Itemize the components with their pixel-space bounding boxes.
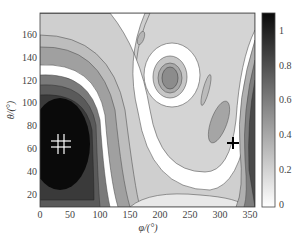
svg-text:1: 1 <box>279 25 284 36</box>
svg-text:80: 80 <box>27 120 37 131</box>
svg-text:60: 60 <box>27 143 37 154</box>
svg-text:0.4: 0.4 <box>279 129 292 140</box>
plot-area <box>30 13 255 207</box>
svg-text:50: 50 <box>65 209 75 220</box>
x-axis-label: φ/(°) <box>139 222 159 234</box>
svg-text:0.8: 0.8 <box>279 60 292 71</box>
svg-text:20: 20 <box>27 189 37 200</box>
svg-text:100: 100 <box>93 209 108 220</box>
colorbar <box>262 13 275 207</box>
y-axis-label: θ/(°) <box>5 100 17 119</box>
svg-text:250: 250 <box>183 209 198 220</box>
svg-text:140: 140 <box>22 52 37 63</box>
colorbar-ticks: 0 0.2 0.4 0.6 0.8 1 <box>279 25 292 210</box>
svg-text:0.2: 0.2 <box>279 164 292 175</box>
svg-text:40: 40 <box>27 166 37 177</box>
svg-text:120: 120 <box>22 75 37 86</box>
svg-text:160: 160 <box>22 29 37 40</box>
contour-figure: 0 0.2 0.4 0.6 0.8 1 0 50 100 150 200 250… <box>0 0 302 246</box>
svg-text:0: 0 <box>279 199 284 210</box>
svg-text:100: 100 <box>22 97 37 108</box>
svg-text:150: 150 <box>123 209 138 220</box>
x-ticks: 0 50 100 150 200 250 300 350 <box>38 209 258 220</box>
svg-text:0: 0 <box>38 209 43 220</box>
svg-text:0.6: 0.6 <box>279 94 292 105</box>
svg-text:300: 300 <box>213 209 228 220</box>
y-ticks: 20 40 60 80 100 120 140 160 <box>22 29 37 200</box>
svg-text:200: 200 <box>153 209 168 220</box>
svg-text:350: 350 <box>243 209 258 220</box>
